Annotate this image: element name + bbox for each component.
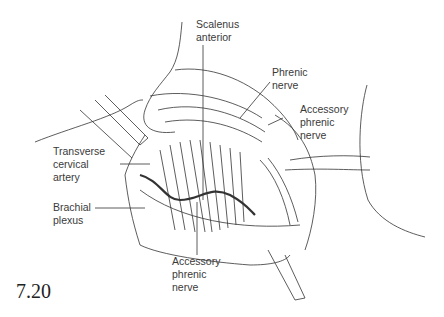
transverse-cervical-artery-vessel: [140, 175, 255, 215]
label-phrenic-nerve: Phrenic nerve: [272, 66, 308, 92]
label-accessory-phrenic-nerve-upper: Accessory phrenic nerve: [300, 103, 348, 142]
neck-outline: [170, 22, 182, 72]
label-brachial-plexus: Brachial plexus: [53, 201, 91, 227]
shoulder-outline: [35, 100, 143, 142]
figure-number: 7.20: [16, 280, 51, 303]
label-scalenus-anterior: Scalenus anterior: [196, 18, 239, 44]
chin-outline: [360, 85, 425, 237]
label-transverse-cervical-artery: Transverse cervical artery: [53, 145, 105, 184]
label-accessory-phrenic-nerve-lower: Accessory phrenic nerve: [172, 255, 220, 294]
